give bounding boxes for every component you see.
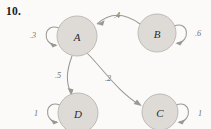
node-B-label: B — [154, 28, 161, 40]
edge-A-to-C — [87, 53, 142, 106]
arrowhead-self-A — [50, 42, 58, 47]
node-C[interactable]: C — [142, 94, 178, 129]
node-B[interactable]: B — [138, 14, 176, 52]
state-diagram-svg: A B C D .4 .5 .2 .3 .6 1 1 — [0, 0, 211, 129]
self-loop-label-A: .3 — [30, 31, 36, 40]
self-loop-label-B: .6 — [195, 29, 202, 38]
self-loop-label-D: 1 — [34, 109, 38, 118]
node-D[interactable]: D — [58, 93, 98, 129]
edge-label-A-to-C: .2 — [105, 74, 111, 83]
node-D-label: D — [73, 108, 82, 120]
edge-label-B-to-A: .4 — [114, 11, 120, 20]
node-C-label: C — [156, 107, 164, 119]
node-A-label: A — [73, 31, 81, 43]
arrowhead-self-B — [176, 40, 184, 45]
edge-label-A-to-D: .5 — [55, 71, 61, 80]
self-loop-label-C: 1 — [198, 109, 202, 118]
arrowhead-self-C — [178, 119, 186, 124]
arrowhead-into-C — [134, 100, 142, 107]
diagram-canvas: 10. — [0, 0, 211, 129]
edge-A-to-D — [67, 56, 73, 96]
node-A[interactable]: A — [57, 16, 97, 56]
arrowhead-self-D — [51, 119, 59, 124]
